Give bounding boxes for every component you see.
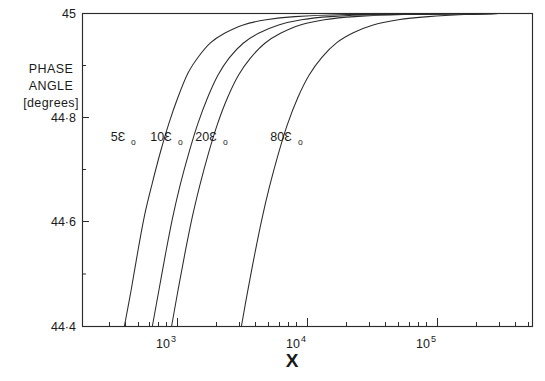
y-axis-title-line-3: [degrees] (23, 96, 79, 110)
x-tick-label-1e4-exponent: 4 (301, 334, 306, 344)
x-axis-title: X (286, 350, 299, 371)
curve-label-80-eps0-sub: o (298, 137, 303, 147)
chart-background (0, 0, 545, 381)
y-tick-label-44-6: 44·6 (51, 215, 76, 229)
y-tick-label-45: 45 (62, 7, 76, 21)
y-axis-title: PHASE ANGLE [degrees] (23, 62, 79, 110)
curve-label-10-eps0-text: 10Ɛ (150, 130, 172, 144)
x-tick-label-1e5-mantissa: 10 (416, 337, 430, 351)
curve-label-20-eps0-sub: o (223, 137, 228, 147)
y-tick-label-44-8: 44·8 (51, 111, 76, 125)
x-tick-label-1e3-mantissa: 10 (156, 337, 170, 351)
curve-label-5-eps0-sub: o (131, 137, 136, 147)
curve-label-20-eps0-text: 20Ɛ (195, 130, 217, 144)
y-tick-label-44-4: 44·4 (51, 320, 76, 334)
y-axis-title-line-1: PHASE (29, 62, 73, 76)
x-tick-label-1e4-mantissa: 10 (286, 337, 300, 351)
curve-label-10-eps0-sub: o (178, 137, 183, 147)
curve-label-5-eps0-text: 5Ɛ (111, 130, 126, 144)
y-axis-title-line-2: ANGLE (29, 79, 73, 93)
phase-angle-chart-figure: 45 44·8 44·6 44·4 10 3 10 4 10 5 X PHASE… (0, 0, 545, 381)
x-tick-label-1e3-exponent: 3 (171, 334, 176, 344)
chart-canvas: 45 44·8 44·6 44·4 10 3 10 4 10 5 X PHASE… (0, 0, 545, 381)
x-tick-label-1e5-exponent: 5 (431, 334, 436, 344)
curve-label-80-eps0-text: 80Ɛ (270, 130, 292, 144)
